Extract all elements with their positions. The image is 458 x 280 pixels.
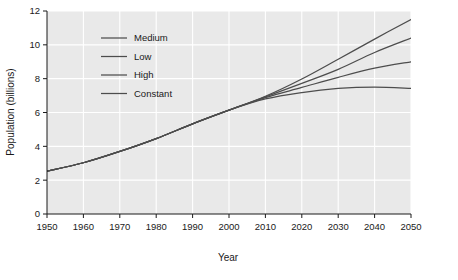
x-tick-label: 1980 xyxy=(146,221,167,232)
legend-label: Low xyxy=(134,51,152,62)
x-tick-label: 2050 xyxy=(400,221,421,232)
legend-label: High xyxy=(134,69,154,80)
y-tick-label: 6 xyxy=(35,107,40,118)
x-tick-label: 1970 xyxy=(109,221,130,232)
x-tick-label: 2020 xyxy=(291,221,312,232)
x-axis-title: Year xyxy=(218,252,239,263)
x-tick-label: 2000 xyxy=(218,221,239,232)
y-tick-label: 12 xyxy=(29,5,40,16)
x-tick-label: 1950 xyxy=(36,221,57,232)
y-tick-label: 0 xyxy=(35,208,40,219)
x-tick-label: 2040 xyxy=(364,221,385,232)
population-projection-chart: 024681012 195019601970198019902000201020… xyxy=(0,0,458,280)
x-tick-label: 2030 xyxy=(328,221,349,232)
legend-label: Medium xyxy=(134,32,168,43)
x-tick-label: 1990 xyxy=(182,221,203,232)
y-tick-label: 10 xyxy=(29,39,40,50)
y-tick-label: 2 xyxy=(35,175,40,186)
x-tick-label: 1960 xyxy=(73,221,94,232)
y-axis-title: Population (billions) xyxy=(5,68,16,155)
y-tick-label: 8 xyxy=(35,73,40,84)
y-tick-label: 4 xyxy=(35,141,40,152)
x-tick-label: 2010 xyxy=(255,221,276,232)
chart-canvas: 024681012 195019601970198019902000201020… xyxy=(0,0,458,280)
legend-label: Constant xyxy=(134,88,172,99)
